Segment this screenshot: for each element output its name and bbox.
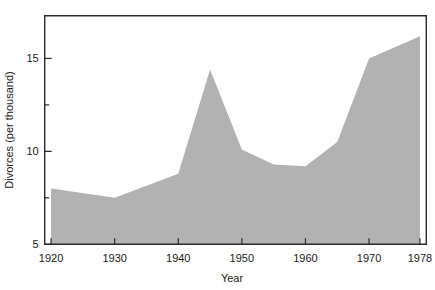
y-axis-title: Divorces (per thousand)	[3, 71, 15, 188]
x-axis-title: Year	[221, 272, 244, 284]
y-tick-label: 15	[26, 52, 38, 64]
area-chart: 15105 1920193019401950196019701978 Divor…	[0, 0, 435, 290]
y-axis-tick-labels: 15105	[26, 52, 38, 250]
x-tick-label: 1978	[408, 252, 432, 264]
x-axis-tick-labels: 1920193019401950196019701978	[39, 252, 432, 264]
x-tick-label: 1970	[357, 252, 381, 264]
y-tick-label: 5	[33, 238, 39, 250]
y-tick-label: 10	[26, 145, 38, 157]
x-tick-label: 1960	[293, 252, 317, 264]
chart-container: 15105 1920193019401950196019701978 Divor…	[0, 0, 435, 290]
x-tick-label: 1920	[39, 252, 63, 264]
x-tick-label: 1950	[230, 252, 254, 264]
x-tick-label: 1940	[166, 252, 190, 264]
x-tick-label: 1930	[102, 252, 126, 264]
